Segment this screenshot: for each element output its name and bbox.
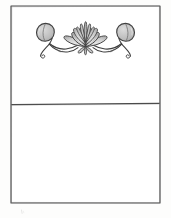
sketch-canvas: Ornamental Frame Sketch (0, 0, 171, 218)
lower-panel (12, 105, 160, 203)
ornamental-frame-drawing (0, 0, 171, 218)
